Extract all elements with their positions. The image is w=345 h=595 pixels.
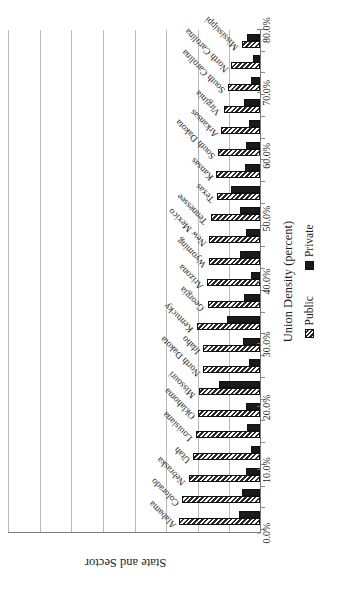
value-axis-tick-label: 50.0% [261, 206, 272, 232]
bar-group [8, 486, 260, 508]
value-axis-tick-label: 0.0% [261, 523, 272, 544]
tick-mark [257, 281, 261, 282]
bar-private[interactable] [240, 251, 260, 258]
bar-public[interactable] [189, 475, 260, 482]
bar-private[interactable] [247, 34, 260, 41]
tick-mark [257, 92, 261, 93]
chart-figure: AlabamaColoradoNebraskaUtahLouisianaOkla… [0, 0, 345, 595]
bar-public[interactable] [228, 84, 260, 91]
legend-swatch-public-icon [305, 329, 314, 338]
bar-group [8, 442, 260, 464]
bar-public[interactable] [242, 41, 260, 48]
bar-private[interactable] [246, 142, 260, 149]
value-axis-tick-label: 80.0% [261, 17, 272, 43]
bar-private[interactable] [245, 164, 260, 171]
legend-item-private[interactable]: Private [303, 225, 315, 271]
bar-public[interactable] [218, 149, 260, 156]
bar-public[interactable] [193, 453, 260, 460]
bar-group [8, 182, 260, 204]
bar-private[interactable] [227, 316, 260, 323]
bar-group [8, 225, 260, 247]
bar-public[interactable] [199, 388, 260, 395]
bar-group [8, 464, 260, 486]
bar-private[interactable] [251, 446, 260, 453]
bar-public[interactable] [203, 345, 260, 352]
bar-group [8, 117, 260, 139]
bar-public[interactable] [209, 236, 260, 243]
value-axis-tick-label: 70.0% [261, 80, 272, 106]
tick-mark [257, 29, 261, 30]
chart-canvas: AlabamaColoradoNebraskaUtahLouisianaOkla… [0, 0, 345, 595]
bar-group [8, 160, 260, 182]
bar-private[interactable] [249, 359, 260, 366]
legend-item-public[interactable]: Public [303, 296, 315, 338]
bar-public[interactable] [208, 301, 260, 308]
bar-group [8, 290, 260, 312]
bar-private[interactable] [219, 381, 260, 388]
bar-group [8, 399, 260, 421]
value-axis-ticks: 0.0%10.0%20.0%30.0%40.0%50.0%60.0%70.0%8… [261, 30, 279, 533]
bar-public[interactable] [224, 106, 260, 113]
bar-public[interactable] [197, 323, 260, 330]
value-axis-tick-label: 10.0% [261, 457, 272, 483]
bar-public[interactable] [179, 518, 260, 525]
bar-group [8, 269, 260, 291]
tick-mark [257, 155, 261, 156]
bar-group [8, 377, 260, 399]
bar-public[interactable] [217, 193, 260, 200]
bar-private[interactable] [244, 294, 260, 301]
bar-group [8, 247, 260, 269]
legend-label-private: Private [303, 225, 315, 258]
bar-private[interactable] [251, 272, 260, 279]
bar-private[interactable] [249, 121, 260, 128]
bar-series-container [8, 30, 260, 532]
bar-group [8, 312, 260, 334]
bar-group [8, 355, 260, 377]
bar-group [8, 420, 260, 442]
bar-private[interactable] [251, 77, 260, 84]
bar-private[interactable] [247, 424, 260, 431]
bar-public[interactable] [231, 62, 260, 69]
bar-public[interactable] [221, 128, 260, 135]
legend-label-public: Public [303, 296, 315, 325]
value-axis-tick-label: 60.0% [261, 143, 272, 169]
category-axis-title: State and Sector [0, 555, 252, 570]
bar-public[interactable] [196, 431, 260, 438]
bar-public[interactable] [209, 258, 260, 265]
bar-private[interactable] [244, 99, 260, 106]
bar-group [8, 52, 260, 74]
bar-public[interactable] [211, 214, 260, 221]
tick-mark [257, 343, 261, 344]
bar-group [8, 73, 260, 95]
bar-private[interactable] [231, 186, 260, 193]
value-axis-tick-label: 30.0% [261, 331, 272, 357]
tick-mark [257, 218, 261, 219]
value-axis-tick-label: 40.0% [261, 269, 272, 295]
tick-mark [257, 532, 261, 533]
bar-group [8, 203, 260, 225]
tick-mark [257, 406, 261, 407]
bar-group [8, 95, 260, 117]
bar-group [8, 334, 260, 356]
bar-private[interactable] [239, 511, 261, 518]
bar-private[interactable] [253, 55, 260, 62]
bar-group [8, 30, 260, 52]
bar-private[interactable] [242, 489, 260, 496]
bar-public[interactable] [198, 410, 260, 417]
bar-public[interactable] [203, 366, 260, 373]
bar-group [8, 507, 260, 529]
tick-mark [257, 469, 261, 470]
bar-private[interactable] [240, 207, 260, 214]
plot-area [8, 30, 261, 533]
chart-legend: Public Private [303, 30, 315, 533]
legend-swatch-private-icon [305, 261, 314, 270]
bar-group [8, 138, 260, 160]
bar-private[interactable] [246, 229, 260, 236]
bar-public[interactable] [182, 496, 260, 503]
bar-public[interactable] [207, 279, 260, 286]
value-axis-tick-label: 20.0% [261, 394, 272, 420]
value-axis-title: Union Density (percent) [281, 30, 296, 533]
bar-public[interactable] [216, 171, 260, 178]
